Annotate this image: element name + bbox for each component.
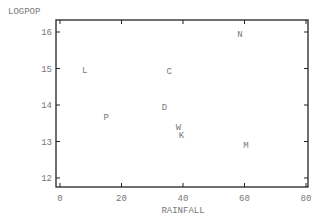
y-tick-label: 16 (41, 28, 52, 38)
y-axis-label: LOGPOP (8, 7, 40, 17)
plot-frame (56, 20, 308, 187)
data-points: NLCDPWKM (82, 30, 249, 151)
x-axis-ticks: 020406080 (57, 20, 311, 204)
y-axis-ticks: 1213141516 (41, 28, 308, 184)
data-point-label: M (243, 141, 248, 151)
x-tick-label: 40 (178, 194, 189, 204)
x-axis-label: RAINFALL (161, 206, 204, 216)
data-point-label: K (179, 131, 185, 141)
y-tick-label: 13 (41, 138, 52, 148)
data-point-label: C (166, 67, 172, 77)
data-point-label: N (237, 30, 242, 40)
data-point-label: P (103, 113, 108, 123)
y-tick-label: 15 (41, 65, 52, 75)
y-tick-label: 14 (41, 101, 52, 111)
x-tick-label: 80 (301, 194, 312, 204)
chart-canvas: 020406080 1213141516 NLCDPWKM LOGPOP RAI… (0, 0, 323, 223)
x-tick-label: 60 (239, 194, 250, 204)
y-tick-label: 12 (41, 174, 52, 184)
plot-border (56, 20, 308, 187)
scatter-chart: 020406080 1213141516 NLCDPWKM LOGPOP RAI… (0, 0, 323, 223)
x-tick-label: 0 (57, 194, 62, 204)
data-point-label: L (82, 66, 87, 76)
x-tick-label: 20 (116, 194, 127, 204)
data-point-label: D (162, 103, 167, 113)
